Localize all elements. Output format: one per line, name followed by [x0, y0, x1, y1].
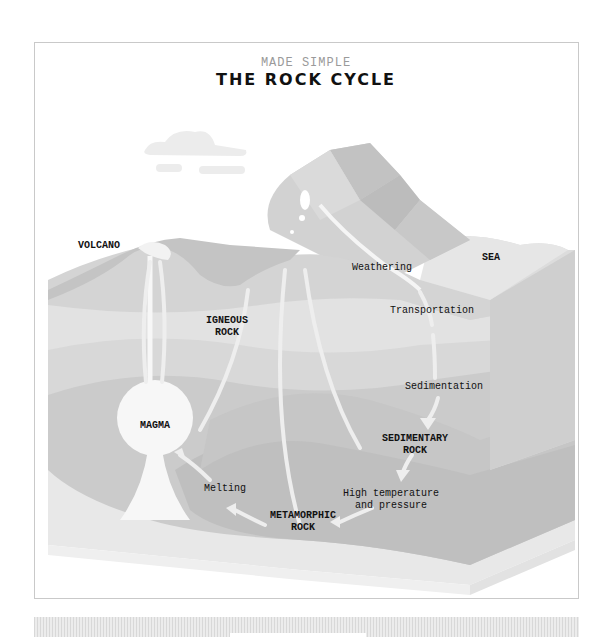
label-sedimentation: Sedimentation [405, 381, 483, 393]
label-sea: SEA [482, 252, 500, 264]
label-metamorphic-rock: METAMORPHIC ROCK [270, 510, 336, 534]
label-transportation: Transportation [390, 305, 474, 317]
label-weathering: Weathering [352, 262, 412, 274]
cloud-icon [144, 131, 246, 174]
label-sedimentary-rock: SEDIMENTARY ROCK [382, 433, 448, 457]
label-magma: MAGMA [140, 420, 170, 432]
label-melting: Melting [204, 483, 246, 495]
footer-tab [230, 633, 366, 637]
label-igneous-rock: IGNEOUS ROCK [206, 315, 248, 339]
label-volcano: VOLCANO [78, 240, 120, 252]
rock-cycle-illustration [0, 0, 612, 637]
label-high-temperature-pressure: High temperature and pressure [343, 488, 439, 512]
